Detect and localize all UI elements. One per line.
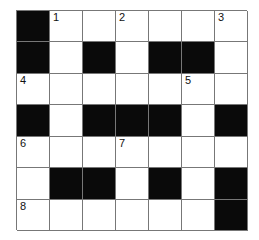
block-cell — [17, 11, 50, 42]
answer-cell[interactable] — [50, 137, 83, 168]
block-cell — [215, 105, 248, 136]
answer-cell[interactable]: 2 — [116, 11, 149, 42]
answer-cell[interactable]: 1 — [50, 11, 83, 42]
answer-cell[interactable] — [215, 42, 248, 73]
clue-number: 6 — [20, 138, 26, 149]
answer-cell[interactable]: 5 — [182, 74, 215, 105]
answer-cell[interactable] — [182, 11, 215, 42]
answer-cell[interactable]: 6 — [17, 137, 50, 168]
block-cell — [116, 105, 149, 136]
answer-cell[interactable] — [182, 168, 215, 199]
answer-cell[interactable]: 4 — [17, 74, 50, 105]
block-cell — [149, 168, 182, 199]
answer-cell[interactable] — [149, 200, 182, 231]
block-cell — [83, 105, 116, 136]
answer-cell[interactable] — [215, 137, 248, 168]
block-cell — [17, 105, 50, 136]
answer-cell[interactable]: 3 — [215, 11, 248, 42]
block-cell — [83, 168, 116, 199]
answer-cell[interactable] — [50, 105, 83, 136]
answer-cell[interactable]: 7 — [116, 137, 149, 168]
clue-number: 8 — [20, 201, 26, 212]
answer-cell[interactable] — [116, 168, 149, 199]
answer-cell[interactable] — [17, 168, 50, 199]
block-cell — [17, 42, 50, 73]
answer-cell[interactable] — [116, 42, 149, 73]
clue-number: 2 — [119, 12, 125, 23]
answer-cell[interactable] — [149, 74, 182, 105]
answer-cell[interactable] — [83, 74, 116, 105]
block-cell — [149, 42, 182, 73]
answer-cell[interactable] — [149, 11, 182, 42]
clue-number: 5 — [185, 75, 191, 86]
clue-number: 4 — [20, 75, 26, 86]
block-cell — [83, 42, 116, 73]
crossword-grid: 12345678 — [16, 10, 247, 230]
answer-cell[interactable] — [83, 200, 116, 231]
answer-cell[interactable] — [215, 74, 248, 105]
answer-cell[interactable] — [149, 137, 182, 168]
answer-cell[interactable] — [182, 105, 215, 136]
answer-cell[interactable] — [83, 11, 116, 42]
block-cell — [50, 168, 83, 199]
answer-cell[interactable] — [50, 200, 83, 231]
answer-cell[interactable] — [50, 42, 83, 73]
block-cell — [215, 168, 248, 199]
clue-number: 3 — [218, 12, 224, 23]
answer-cell[interactable]: 8 — [17, 200, 50, 231]
block-cell — [215, 200, 248, 231]
answer-cell[interactable] — [83, 137, 116, 168]
block-cell — [182, 42, 215, 73]
clue-number: 1 — [53, 12, 59, 23]
answer-cell[interactable] — [182, 200, 215, 231]
answer-cell[interactable] — [116, 74, 149, 105]
answer-cell[interactable] — [116, 200, 149, 231]
answer-cell[interactable] — [50, 74, 83, 105]
clue-number: 7 — [119, 138, 125, 149]
block-cell — [149, 105, 182, 136]
answer-cell[interactable] — [182, 137, 215, 168]
